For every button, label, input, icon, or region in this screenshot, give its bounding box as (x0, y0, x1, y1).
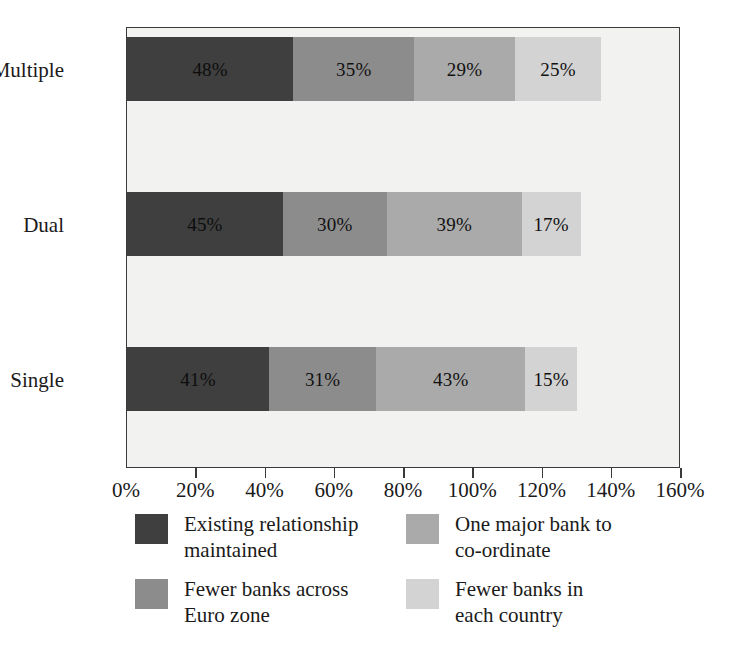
legend-label: One major bank to co-ordinate (455, 512, 612, 563)
bar-segment: 45% (127, 192, 283, 256)
legend-label-line: each country (455, 603, 563, 627)
x-axis-tick (334, 468, 336, 478)
bar-row: 48% 35% 29% 25% (127, 37, 601, 101)
legend-label-line: One major bank to (455, 512, 612, 536)
bar-segment-label: 43% (433, 370, 468, 389)
legend-swatch-icon (406, 579, 439, 609)
bar-segment: 43% (376, 347, 525, 411)
stacked-bar-chart: Multiple Dual Single 48% 35% 29% 25% (0, 0, 746, 647)
plot-area: 48% 35% 29% 25% 45% 30% (126, 27, 680, 468)
legend-label-line: Euro zone (184, 603, 270, 627)
x-axis-tick (680, 468, 682, 478)
legend-label-line: Fewer banks across (184, 577, 348, 601)
legend-label: Existing relationship maintained (184, 512, 358, 563)
legend-item: Existing relationship maintained (135, 512, 384, 563)
bar-segment: 35% (293, 37, 414, 101)
bar-segment-label: 29% (447, 60, 482, 79)
bar-segment: 48% (127, 37, 293, 101)
bar-segment-label: 25% (540, 60, 575, 79)
x-axis-tick (265, 468, 267, 478)
legend-label: Fewer banks in each country (455, 577, 583, 628)
bar-segment: 25% (515, 37, 602, 101)
bar-segment: 31% (269, 347, 376, 411)
bar-segment: 41% (127, 347, 269, 411)
x-axis-tick-label: 160% (635, 478, 725, 503)
legend-swatch-icon (135, 514, 168, 544)
bar-segment-label: 15% (533, 370, 568, 389)
legend-label-line: co-ordinate (455, 538, 551, 562)
legend-label-line: maintained (184, 538, 277, 562)
bar-segment-label: 30% (317, 215, 352, 234)
y-axis-label-single: Single (0, 368, 64, 393)
bar-segment: 39% (387, 192, 522, 256)
legend-swatch-icon (135, 579, 168, 609)
legend-label: Fewer banks across Euro zone (184, 577, 348, 628)
bar-segment-label: 41% (180, 370, 215, 389)
legend-item: One major bank to co-ordinate (406, 512, 655, 563)
bar-row: 45% 30% 39% 17% (127, 192, 581, 256)
bar-segment: 29% (414, 37, 514, 101)
legend-item: Fewer banks across Euro zone (135, 577, 384, 628)
bar-row: 41% 31% 43% 15% (127, 347, 577, 411)
bar-segment-label: 17% (533, 215, 568, 234)
legend-swatch-icon (406, 514, 439, 544)
bar-segment: 15% (525, 347, 577, 411)
x-axis-tick (403, 468, 405, 478)
y-axis-label-dual: Dual (0, 213, 64, 238)
bar-segment-label: 31% (305, 370, 340, 389)
legend-item: Fewer banks in each country (406, 577, 655, 628)
x-axis-tick (472, 468, 474, 478)
x-axis-tick (195, 468, 197, 478)
y-axis-label-multiple: Multiple (0, 58, 64, 83)
plot-inner: 48% 35% 29% 25% 45% 30% (127, 28, 679, 467)
bar-segment: 17% (522, 192, 581, 256)
bar-segment-label: 35% (336, 60, 371, 79)
chart-legend: Existing relationship maintained One maj… (135, 512, 655, 628)
bar-segment-label: 45% (187, 215, 222, 234)
bar-segment-label: 39% (436, 215, 471, 234)
bar-segment: 30% (283, 192, 387, 256)
bar-segment-label: 48% (192, 60, 227, 79)
x-axis-tick (611, 468, 613, 478)
legend-label-line: Existing relationship (184, 512, 358, 536)
x-axis-tick (542, 468, 544, 478)
legend-label-line: Fewer banks in (455, 577, 583, 601)
